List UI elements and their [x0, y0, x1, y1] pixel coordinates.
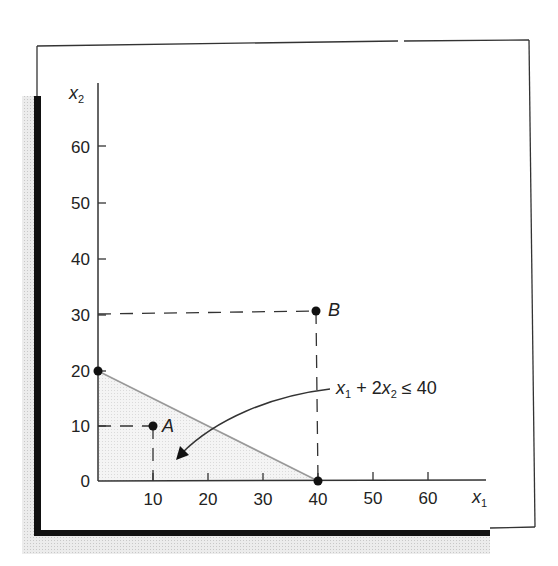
svg-text:40: 40 — [71, 250, 90, 269]
svg-text:10: 10 — [144, 490, 163, 509]
y-axis-label: x2 — [68, 83, 84, 105]
svg-text:10: 10 — [71, 417, 90, 436]
point-intercept-x1 — [314, 477, 323, 486]
point-b-label: B — [328, 300, 340, 320]
svg-text:0: 0 — [81, 472, 90, 491]
x-tick-labels: 10 20 30 40 50 60 — [144, 489, 438, 509]
svg-text:20: 20 — [199, 490, 218, 509]
svg-text:30: 30 — [254, 490, 273, 509]
guide-b-horizontal — [98, 311, 316, 314]
y-tick-labels: 0 10 20 30 40 50 60 — [71, 138, 90, 491]
feasible-region-chart: 0 10 20 30 40 50 60 10 20 30 40 50 60 x2… — [0, 0, 558, 566]
point-a — [149, 422, 158, 431]
frame-shadow — [22, 96, 490, 554]
point-b — [312, 307, 321, 316]
svg-text:60: 60 — [71, 138, 90, 157]
x-axis — [98, 480, 486, 481]
svg-text:60: 60 — [419, 489, 438, 508]
svg-text:20: 20 — [71, 362, 90, 381]
point-intercept-x2 — [94, 367, 103, 376]
point-a-label: A — [161, 416, 174, 436]
svg-text:50: 50 — [364, 489, 383, 508]
constraint-label: x1 + 2x2 ≤ 40 — [335, 378, 437, 400]
svg-text:50: 50 — [71, 194, 90, 213]
svg-text:30: 30 — [71, 306, 90, 325]
x-axis-label: x1 — [471, 487, 487, 509]
svg-text:40: 40 — [309, 490, 328, 509]
guide-b-vertical — [316, 311, 318, 481]
